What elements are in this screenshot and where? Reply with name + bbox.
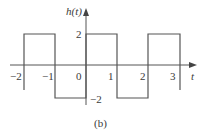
tick-label-0: 0	[76, 70, 82, 82]
x-axis-arrow-icon	[189, 62, 197, 68]
axes	[10, 8, 197, 105]
figure-caption: (b)	[94, 117, 107, 130]
tick-label-3: 3	[170, 70, 176, 82]
square-wave-chart: h(t) t 2 −2 −2 −1 0 1 2 3 (b)	[0, 0, 205, 135]
y-axis-label: h(t)	[66, 5, 82, 18]
tick-label-minus-1: −1	[42, 70, 54, 82]
waveform-h-of-t	[24, 34, 180, 98]
tick-label-2: 2	[140, 70, 146, 82]
level-low-label: −2	[90, 93, 102, 105]
y-axis-arrow-icon	[83, 8, 89, 16]
x-axis-label: t	[191, 70, 195, 82]
level-high-label: 2	[76, 28, 82, 40]
tick-label-minus-2: −2	[10, 70, 22, 82]
tick-label-1: 1	[108, 70, 114, 82]
